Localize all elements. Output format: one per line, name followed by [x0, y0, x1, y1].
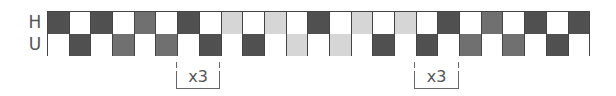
grid-cell: [569, 34, 590, 56]
grid-cell: [287, 34, 309, 56]
grid-cell: [547, 34, 569, 56]
grid-cell: [569, 12, 590, 34]
grid-cell: [503, 34, 525, 56]
grid-cell: [135, 34, 157, 56]
repeat-bracket-right: x3: [414, 62, 459, 89]
row-label-u: U: [26, 33, 44, 55]
repeat-bracket-left: x3: [176, 62, 220, 89]
grid-cell: [70, 34, 92, 56]
grid-cell: [525, 34, 547, 56]
grid-row-h: [48, 12, 589, 35]
grid-cell: [373, 12, 395, 34]
grid-cell: [178, 12, 200, 34]
grid-cell: [243, 34, 265, 56]
grid-cell: [352, 12, 374, 34]
grid-cell: [460, 12, 482, 34]
grid-cell: [70, 12, 92, 34]
grid-cell: [91, 34, 113, 56]
grid-cell: [482, 12, 504, 34]
grid-cell: [308, 34, 330, 56]
repeat-label: x3: [177, 67, 219, 86]
grid-cell: [330, 34, 352, 56]
grid-cell: [417, 34, 439, 56]
repeat-label: x3: [415, 67, 458, 86]
grid-cell: [438, 34, 460, 56]
grid-cell: [438, 12, 460, 34]
pattern-grid: [47, 11, 590, 56]
grid-cell: [352, 34, 374, 56]
grid-cell: [460, 34, 482, 56]
grid-cell: [265, 12, 287, 34]
grid-cell: [395, 12, 417, 34]
grid-cell: [113, 12, 135, 34]
grid-cell: [308, 12, 330, 34]
grid-cell: [330, 12, 352, 34]
grid-cell: [243, 12, 265, 34]
grid-cell: [135, 12, 157, 34]
grid-cell: [91, 12, 113, 34]
grid-cell: [48, 34, 70, 56]
row-label-h: H: [26, 11, 44, 33]
grid-cell: [113, 34, 135, 56]
grid-cell: [525, 12, 547, 34]
grid-cell: [547, 12, 569, 34]
grid-cell: [200, 12, 222, 34]
grid-cell: [178, 34, 200, 56]
grid-row-u: [48, 34, 589, 56]
grid-cell: [287, 12, 309, 34]
grid-cell: [265, 34, 287, 56]
grid-cell: [373, 34, 395, 56]
grid-cell: [222, 34, 244, 56]
grid-cell: [156, 12, 178, 34]
grid-cell: [48, 12, 70, 34]
grid-cell: [200, 34, 222, 56]
grid-cell: [222, 12, 244, 34]
grid-cell: [417, 12, 439, 34]
grid-cell: [156, 34, 178, 56]
grid-cell: [503, 12, 525, 34]
grid-cell: [482, 34, 504, 56]
grid-cell: [395, 34, 417, 56]
